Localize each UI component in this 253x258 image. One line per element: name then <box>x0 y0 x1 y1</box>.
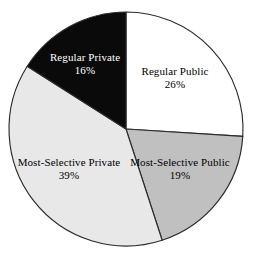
pie-chart: Regular Public26%Most-Selective Public19… <box>0 0 253 258</box>
pie-slice-group <box>9 12 243 246</box>
pie-chart-svg <box>0 0 253 258</box>
pie-slice <box>126 12 243 136</box>
